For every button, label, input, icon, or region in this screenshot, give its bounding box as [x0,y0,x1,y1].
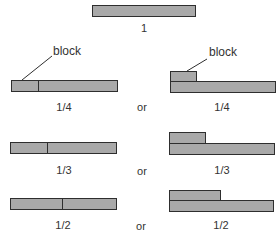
row-third-stacked-base [169,143,275,155]
row-third-left-label: 1/3 [50,164,78,176]
row-quarter-stacked-base [170,81,276,93]
whole-label: 1 [132,22,156,34]
whole-bar [92,5,196,17]
row-third-divider [47,142,48,154]
row-half-left-label: 1/2 [49,219,77,231]
row-half-stacked-base [169,200,274,212]
row-third-inline-bar [10,142,117,154]
row-half-inline-bar [10,198,117,210]
row-quarter-left-label: 1/4 [50,101,78,113]
row-quarter-right-label: 1/4 [208,101,236,113]
row-quarter-divider [38,80,39,92]
row-quarter-or: or [132,101,152,113]
row-third-or: or [132,165,152,177]
row-half-or: or [131,220,151,232]
row-half-right-label: 1/2 [207,219,235,231]
row-half-divider [62,198,63,210]
block-callout-left: block [53,45,81,58]
row-third-right-label: 1/3 [208,164,236,176]
row-quarter-inline-bar [11,80,118,92]
block-callout-right: block [209,46,237,59]
